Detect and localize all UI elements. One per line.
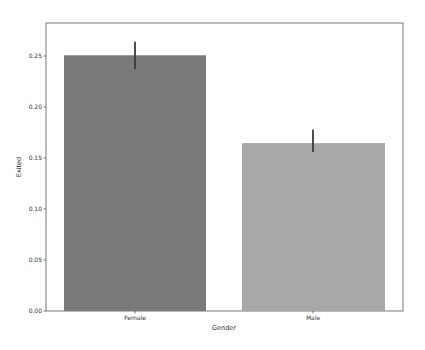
y-axis-label: Exited [15,157,23,177]
bar-chart: 0.000.050.100.150.200.25 Female Male Gen… [0,0,425,350]
y-tick-label: 0.25 [29,52,43,59]
x-axis: Female Male [124,311,320,321]
y-tick-label: 0.10 [29,205,43,212]
y-tick-label: 0.20 [29,103,43,110]
x-tick-label-female: Female [124,314,146,321]
y-tick-label: 0.00 [29,307,43,314]
y-axis: 0.000.050.100.150.200.25 [29,52,46,314]
y-tick-label: 0.15 [29,154,43,161]
x-axis-label: Gender [212,324,236,332]
y-tick-label: 0.05 [29,256,43,263]
x-tick-label-male: Male [306,314,321,321]
bar-female [64,55,206,311]
bar-male [242,143,385,311]
